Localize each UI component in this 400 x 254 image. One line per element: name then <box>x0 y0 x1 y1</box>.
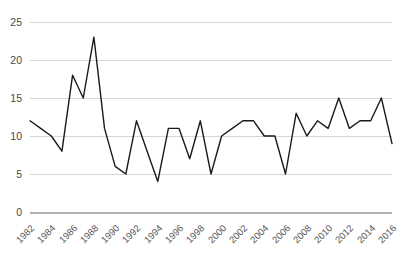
x-tick-label-1994: 1994 <box>142 223 164 245</box>
y-tick-label-25: 25 <box>0 17 22 28</box>
y-tick-label-5: 5 <box>0 169 22 180</box>
x-tick-label-1996: 1996 <box>163 223 185 245</box>
plot-area <box>30 22 392 212</box>
line-chart: 0510152025 19821984198619881990199219941… <box>0 0 400 254</box>
x-tick-label-1986: 1986 <box>57 223 79 245</box>
x-tick-label-2016: 2016 <box>376 223 398 245</box>
x-tick-label-2004: 2004 <box>249 223 271 245</box>
y-axis-tick-labels: 0510152025 <box>0 22 30 212</box>
y-tick-label-0: 0 <box>0 207 22 218</box>
x-tick-label-2014: 2014 <box>355 223 377 245</box>
x-tick-label-1984: 1984 <box>36 223 58 245</box>
x-tick-label-1992: 1992 <box>121 223 143 245</box>
x-tick-label-2010: 2010 <box>313 223 335 245</box>
series-line <box>30 37 392 181</box>
y-tick-label-10: 10 <box>0 131 22 142</box>
x-tick-label-2012: 2012 <box>334 223 356 245</box>
y-tick-label-15: 15 <box>0 93 22 104</box>
x-tick-label-1998: 1998 <box>185 223 207 245</box>
x-tick-label-1988: 1988 <box>78 223 100 245</box>
x-tick-label-1982: 1982 <box>14 223 36 245</box>
x-tick-label-1990: 1990 <box>100 223 122 245</box>
x-tick-label-2008: 2008 <box>291 223 313 245</box>
x-tick-label-2000: 2000 <box>206 223 228 245</box>
y-tick-label-20: 20 <box>0 55 22 66</box>
x-tick-label-2006: 2006 <box>270 223 292 245</box>
series-line-group <box>30 22 392 212</box>
x-tick-label-2002: 2002 <box>227 223 249 245</box>
x-axis-tick-labels: 1982198419861988199019921994199619982000… <box>30 214 392 254</box>
